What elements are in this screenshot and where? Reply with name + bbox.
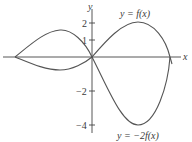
y-axis-label: y [87,1,93,12]
y-tick-label-minus-4: −4 [76,120,87,131]
label-minus-2f: y = −2f(x) [116,130,159,142]
y-tick-label-minus-2: −2 [76,86,87,97]
x-axis-label: x [182,51,188,62]
curve-end-tail [170,57,172,64]
function-graph: 2 1 −2 −4 y x y = f(x) y = −2f(x) [0,0,192,142]
curve-minus-2f-right [92,57,170,125]
y-tick-label-2: 2 [82,18,87,29]
curve-f-left [15,57,92,70]
curve-minus-2f-left [15,30,92,57]
label-f: y = f(x) [119,8,151,20]
curve-f-right [92,22,170,57]
